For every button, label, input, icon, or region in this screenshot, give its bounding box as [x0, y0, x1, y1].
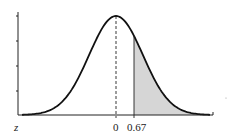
normal-curve	[22, 16, 210, 115]
normal-distribution-diagram: z 0 0.67	[0, 0, 230, 137]
cutoff-tick-label: 0.67	[127, 121, 147, 133]
z-axis-label: z	[13, 121, 19, 133]
stray-mark	[225, 97, 226, 98]
mean-tick-label: 0	[113, 121, 119, 133]
